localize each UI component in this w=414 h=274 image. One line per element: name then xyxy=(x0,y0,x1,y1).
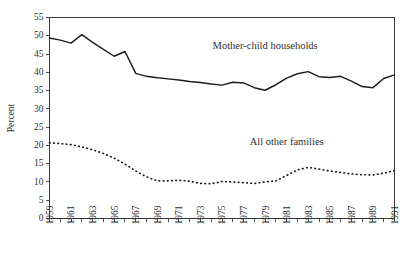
y-axis-tick-label: 35 xyxy=(34,85,44,95)
y-axis-tick-label: 50 xyxy=(34,30,44,40)
y-axis-tick-label: 55 xyxy=(34,12,44,22)
x-axis-tick-label: 1989 xyxy=(368,205,378,224)
x-axis-tick-labels: 1959196119631965196719691971197319751977… xyxy=(45,205,400,224)
series-line-all-other-families xyxy=(50,143,395,184)
line-chart-canvas: 0510152025303540455055 19591961196319651… xyxy=(0,0,414,274)
x-axis-tick-label: 1979 xyxy=(261,205,271,224)
x-axis-tick-label: 1971 xyxy=(174,205,184,224)
x-axis-tick-label: 1967 xyxy=(131,205,141,224)
x-axis-tick-label: 1975 xyxy=(217,205,227,224)
x-axis-tick-label: 1987 xyxy=(347,205,357,224)
y-axis-tick-label: 45 xyxy=(34,49,44,59)
series-group xyxy=(50,35,395,184)
x-axis-tick-label: 1981 xyxy=(282,205,292,224)
x-axis-tick-label: 1991 xyxy=(390,205,400,224)
x-axis-tick-label: 1961 xyxy=(66,205,76,224)
series-label-mother-child-households: Mother-child households xyxy=(213,40,318,51)
x-axis-tick-label: 1959 xyxy=(45,205,55,224)
y-axis-tick-label: 40 xyxy=(34,67,44,77)
y-axis-tick-label: 25 xyxy=(34,122,44,132)
y-axis-tick-label: 20 xyxy=(34,140,44,150)
y-axis-tick-label: 30 xyxy=(34,104,44,114)
x-axis-tick-label: 1969 xyxy=(153,205,163,224)
x-axis-tick-label: 1985 xyxy=(325,205,335,224)
x-axis-tick-label: 1973 xyxy=(196,205,206,224)
x-axis-tick-label: 1977 xyxy=(239,205,249,224)
y-axis-tick-label: 5 xyxy=(39,195,44,205)
y-axis-tick-labels: 0510152025303540455055 xyxy=(34,12,44,223)
x-axis-tick-label: 1963 xyxy=(88,205,98,224)
series-label-all-other-families: All other families xyxy=(250,136,324,147)
y-axis-title: Percent xyxy=(6,103,16,132)
y-axis-tick-label: 0 xyxy=(39,213,44,223)
x-axis-tick-label: 1965 xyxy=(110,205,120,224)
y-axis-tick-label: 15 xyxy=(34,158,44,168)
x-axis-tick-label: 1983 xyxy=(304,205,314,224)
chart-figure: 0510152025303540455055 19591961196319651… xyxy=(0,0,414,274)
y-axis-tick-label: 10 xyxy=(34,177,44,187)
